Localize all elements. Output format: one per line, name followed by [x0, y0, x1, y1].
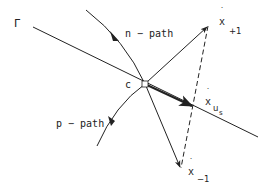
x-plus1-label: x	[219, 17, 225, 27]
x-minus1-subscript: −1	[197, 175, 210, 184]
x-us-subsubscript: s	[219, 110, 223, 117]
p-path-curve	[97, 84, 145, 146]
n-path-arrow-icon	[110, 31, 119, 41]
point-c	[142, 81, 148, 87]
p-path-label: p − path	[56, 119, 104, 129]
x-minus1-label: x	[188, 167, 194, 177]
point-c-label: c	[125, 80, 131, 90]
vector-x-us	[147, 85, 192, 106]
n-path-curve	[86, 10, 145, 84]
x-us-subscript: u	[213, 104, 218, 113]
x-us-label: x	[205, 97, 211, 107]
p-path-arrow-icon	[108, 116, 115, 126]
x-plus1-subscript: +1	[229, 27, 242, 36]
x-plus1-dot: ˙	[220, 8, 224, 16]
n-path-label: n − path	[125, 29, 173, 39]
gamma-label: Γ	[14, 18, 20, 29]
